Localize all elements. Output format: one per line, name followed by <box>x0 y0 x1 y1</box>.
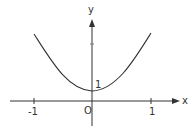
x-tick-label-1: 1 <box>149 107 155 117</box>
x-tick-label-neg1: -1 <box>28 107 38 117</box>
y-intercept-label: 1 <box>95 80 101 90</box>
x-axis-label: x <box>182 96 188 106</box>
origin-label: O <box>84 106 92 116</box>
x-axis-arrow-icon <box>172 98 180 104</box>
y-axis-label: y <box>88 5 94 15</box>
y-axis-arrow-icon <box>89 19 95 27</box>
